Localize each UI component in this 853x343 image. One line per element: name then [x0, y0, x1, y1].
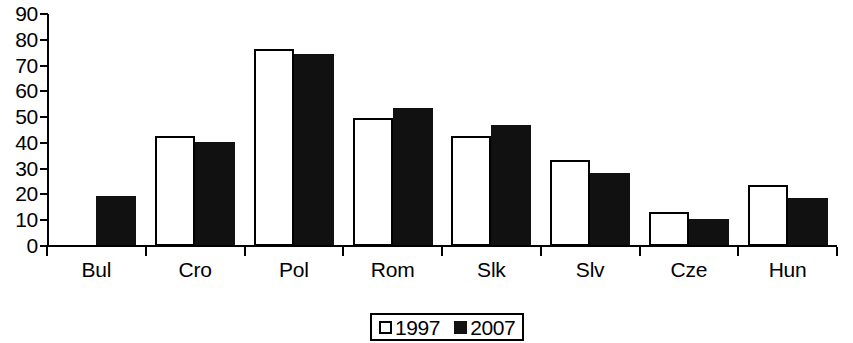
- bar-cro-1997: [155, 136, 195, 246]
- bar-cze-1997: [649, 212, 689, 246]
- y-axis-tick-label-wrap: 90: [0, 3, 38, 24]
- x-axis-category-label: Slv: [541, 258, 640, 282]
- legend-entry-1997: 1997: [379, 317, 440, 338]
- y-axis-tick: [40, 90, 48, 92]
- y-axis-tick: [40, 13, 48, 15]
- y-axis-tick-label: 70: [2, 55, 38, 76]
- y-axis-tick-label: 60: [2, 80, 38, 101]
- x-axis-category-label: Slk: [442, 258, 541, 282]
- y-axis-tick: [40, 168, 48, 170]
- x-axis-tick: [342, 247, 344, 256]
- y-axis-tick-label: 50: [2, 106, 38, 127]
- y-axis-tick-label-wrap: 0: [0, 235, 38, 256]
- y-axis-tick-label-wrap: 10: [0, 209, 38, 230]
- bar-chart: 0102030405060708090 BulCroPolRomSlkSlvCz…: [0, 0, 853, 343]
- y-axis-tick-label: 10: [2, 209, 38, 230]
- y-axis-tick: [40, 116, 48, 118]
- bar-rom-1997: [353, 118, 393, 246]
- y-axis-tick-label-wrap: 60: [0, 80, 38, 101]
- x-axis-tick: [737, 247, 739, 256]
- bar-pol-1997: [254, 49, 294, 246]
- y-axis-tick: [40, 219, 48, 221]
- x-axis-category-label: Cro: [146, 258, 245, 282]
- y-axis-tick-label: 20: [2, 183, 38, 204]
- bar-rom-2007: [393, 108, 433, 246]
- x-axis-category-label: Pol: [245, 258, 344, 282]
- y-axis-tick-label: 90: [2, 3, 38, 24]
- legend-swatch-open-square-icon: [379, 321, 392, 334]
- legend-label-1997: 1997: [395, 317, 440, 338]
- legend-swatch-filled-square-icon: [454, 321, 467, 334]
- y-axis-tick-label: 80: [2, 29, 38, 50]
- y-axis-tick-label-wrap: 50: [0, 106, 38, 127]
- bar-pol-2007: [294, 54, 334, 246]
- x-axis-tick: [441, 247, 443, 256]
- legend: 1997 2007: [370, 313, 524, 341]
- bar-cro-2007: [195, 142, 235, 246]
- y-axis-tick-label-wrap: 30: [0, 158, 38, 179]
- y-axis-tick-label: 40: [2, 132, 38, 153]
- x-axis-tick: [145, 247, 147, 256]
- x-axis-tick: [836, 247, 838, 256]
- bar-slv-2007: [590, 173, 630, 246]
- x-axis-tick: [639, 247, 641, 256]
- y-axis-line: [47, 14, 49, 247]
- y-axis-tick: [40, 142, 48, 144]
- y-axis-tick: [40, 193, 48, 195]
- y-axis-tick-label: 0: [2, 235, 38, 256]
- x-axis-tick: [244, 247, 246, 256]
- x-axis-category-label: Cze: [640, 258, 739, 282]
- y-axis-tick: [40, 39, 48, 41]
- x-axis-category-label: Hun: [738, 258, 837, 282]
- bar-hun-1997: [748, 185, 788, 246]
- y-axis-tick-label-wrap: 70: [0, 55, 38, 76]
- bar-slk-2007: [491, 125, 531, 246]
- x-axis-category-label: Rom: [343, 258, 442, 282]
- legend-label-2007: 2007: [470, 317, 515, 338]
- bar-hun-2007: [788, 198, 828, 246]
- legend-entry-2007: 2007: [454, 317, 515, 338]
- x-axis-tick: [46, 247, 48, 256]
- x-axis-tick: [540, 247, 542, 256]
- x-axis-category-label: Bul: [47, 258, 146, 282]
- y-axis-tick-label-wrap: 40: [0, 132, 38, 153]
- y-axis-tick-label-wrap: 20: [0, 183, 38, 204]
- bar-bul-2007: [96, 196, 136, 246]
- bar-slk-1997: [451, 136, 491, 246]
- bar-slv-1997: [550, 160, 590, 246]
- y-axis-tick-label-wrap: 80: [0, 29, 38, 50]
- y-axis-tick: [40, 65, 48, 67]
- y-axis-tick-label: 30: [2, 158, 38, 179]
- bar-cze-2007: [689, 219, 729, 246]
